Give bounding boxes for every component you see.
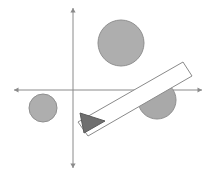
- small-circle-lower-left-quadrant: [29, 94, 57, 122]
- geometry-scene-svg: [0, 0, 216, 175]
- y-axis-down-arrow-icon: [70, 164, 75, 169]
- y-axis-up-arrow-icon: [70, 8, 75, 13]
- shape-layer: [29, 20, 192, 136]
- x-axis-left-arrow-icon: [14, 87, 19, 92]
- scene-canvas: [0, 0, 216, 175]
- large-circle-upper-right-quadrant: [98, 20, 144, 66]
- x-axis-right-arrow-icon: [198, 87, 203, 92]
